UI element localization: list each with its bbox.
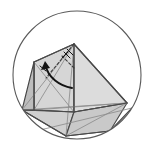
geometry-diagram: Polyhedron rotation diagram inside circl… — [0, 0, 156, 154]
figure-container: Polyhedron rotation diagram inside circl… — [0, 0, 156, 154]
